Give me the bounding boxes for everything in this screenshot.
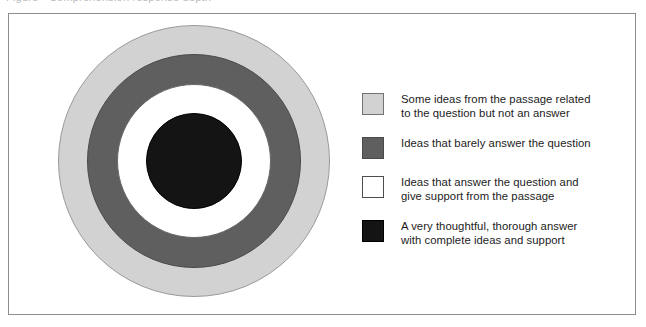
legend-item-barely-answer: Ideas that barely answer the question [362,136,624,159]
concentric-target-diagram [58,25,330,297]
legend-label-some-ideas: Some ideas from the passage related to t… [401,92,591,120]
legend-swatch-icon-answer-support [362,176,384,198]
legend-swatch-icon-barely-answer [362,137,384,159]
legend-item-some-ideas: Some ideas from the passage related to t… [362,92,624,120]
top-cut-caption-text: Figure • Comprehension response depth [6,0,211,3]
top-cut-caption-remnant: Figure • Comprehension response depth [0,0,646,9]
legend-item-thorough-answer: A very thoughtful, thorough answer with … [362,219,624,247]
legend-swatch-icon-thorough-answer [362,220,384,242]
figure-frame: Some ideas from the passage related to t… [8,13,636,315]
legend-label-thorough-answer: A very thoughtful, thorough answer with … [401,219,577,247]
legend-item-answer-support: Ideas that answer the question and give … [362,175,624,203]
legend-swatch-icon-some-ideas [362,93,384,115]
legend-label-answer-support: Ideas that answer the question and give … [401,175,579,203]
ring-core-thorough-answer [146,113,242,209]
legend-label-barely-answer: Ideas that barely answer the question [401,136,591,150]
legend: Some ideas from the passage related to t… [362,92,624,247]
